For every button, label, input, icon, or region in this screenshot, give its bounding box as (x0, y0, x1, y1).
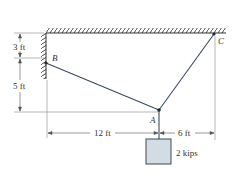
joint-C (212, 32, 215, 35)
cable-AB (46, 63, 159, 110)
cables (46, 34, 214, 139)
load-label: 2 kips (176, 148, 198, 158)
joint-B (44, 61, 47, 64)
dim-3ft-label: 3 ft (13, 42, 26, 52)
dim-6ft-label: 6 ft (178, 128, 191, 138)
dim-5ft-label: 5 ft (13, 81, 26, 91)
point-B-label: B (52, 53, 58, 63)
statics-diagram: 3 ft 5 ft 12 ft 6 ft B A C 2 kips (0, 0, 239, 180)
load-box (146, 139, 171, 164)
wall-support (41, 33, 46, 79)
dim-12ft-label: 12 ft (94, 128, 111, 138)
cable-AC (159, 34, 214, 110)
ceiling-support (46, 28, 226, 33)
joint-A (157, 108, 161, 112)
point-A-label: A (149, 115, 156, 125)
point-C-label: C (218, 36, 225, 46)
